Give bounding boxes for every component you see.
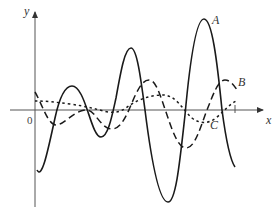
origin-label: 0 [27, 114, 33, 126]
waveform-diagram: y x 0 A B C [0, 0, 276, 218]
curve-a-label: A [211, 13, 220, 27]
x-axis-label: x [265, 113, 272, 127]
curve-c-label: C [210, 118, 219, 132]
curve-c [35, 95, 236, 123]
y-axis-label: y [23, 4, 30, 18]
curve-b-label: B [238, 75, 246, 89]
